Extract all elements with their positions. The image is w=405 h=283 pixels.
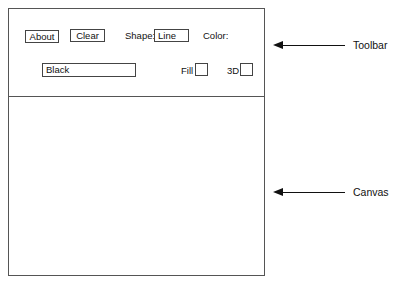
canvas-callout: Canvas <box>353 186 389 198</box>
fill-checkbox[interactable] <box>195 63 208 76</box>
color-label: Color: <box>203 30 228 41</box>
toolbar-callout: Toolbar <box>353 39 387 51</box>
color-field[interactable]: Black <box>42 63 136 77</box>
fill-label: Fill <box>181 65 193 76</box>
shape-select[interactable]: Line <box>154 29 189 42</box>
shape-label: Shape: <box>125 30 155 41</box>
canvas[interactable] <box>9 97 264 275</box>
canvas-arrow-line <box>280 192 345 193</box>
3d-label: 3D <box>227 65 239 76</box>
clear-button[interactable]: Clear <box>70 29 105 42</box>
3d-checkbox[interactable] <box>240 63 253 76</box>
about-button[interactable]: About <box>25 30 59 43</box>
toolbar-arrow-line <box>280 45 345 46</box>
